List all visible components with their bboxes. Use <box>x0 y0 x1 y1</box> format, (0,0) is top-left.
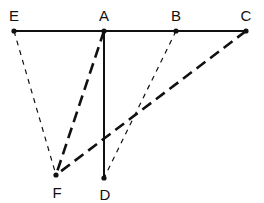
segment-EF <box>14 31 56 175</box>
point-C <box>243 28 248 33</box>
point-label-C: C <box>241 7 252 24</box>
point-D <box>101 175 106 180</box>
point-B <box>173 28 178 33</box>
geometry-canvas: E A B C F D <box>0 0 264 203</box>
point-label-E: E <box>9 7 19 24</box>
segment-AF <box>56 31 104 175</box>
segment-CF <box>56 31 246 175</box>
geometry-diagram: E A B C F D <box>0 0 264 203</box>
point-label-B: B <box>171 7 181 24</box>
point-F <box>53 172 58 177</box>
segment-BD <box>104 31 176 178</box>
point-A <box>101 28 106 33</box>
point-label-D: D <box>100 186 111 203</box>
point-label-A: A <box>99 7 109 24</box>
point-E <box>11 28 16 33</box>
point-label-F: F <box>52 184 61 201</box>
